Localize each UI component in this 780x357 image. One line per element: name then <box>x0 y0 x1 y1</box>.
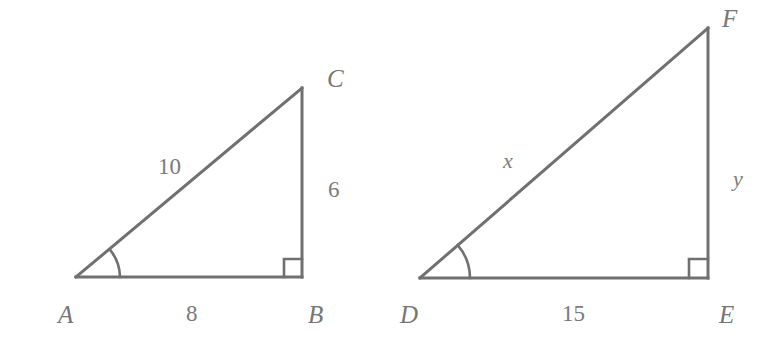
side-label-hypotenuse-abc: 10 <box>158 155 181 178</box>
vertex-label-e: E <box>719 302 734 327</box>
side-label-vertical-def: y <box>733 168 743 190</box>
triangles-canvas <box>0 0 780 357</box>
vertex-label-a: A <box>58 302 73 327</box>
vertex-label-c: C <box>327 66 344 91</box>
side-label-base-abc: 8 <box>186 302 198 325</box>
right-angle-marker-e <box>689 259 708 278</box>
side-label-vertical-abc: 6 <box>328 178 340 201</box>
triangle-abc <box>76 88 302 277</box>
triangle-def <box>420 28 708 278</box>
side-label-hypotenuse-def: x <box>503 150 513 172</box>
geometry-figure: A B C 10 6 8 D E F x y 15 <box>0 0 780 357</box>
angle-arc-d <box>458 245 470 278</box>
vertex-label-f: F <box>722 6 737 31</box>
vertex-label-d: D <box>400 302 418 327</box>
right-angle-marker-b <box>284 259 302 277</box>
angle-arc-a <box>110 250 120 277</box>
vertex-label-b: B <box>308 302 323 327</box>
side-label-base-def: 15 <box>562 302 585 325</box>
segment-df <box>420 28 708 278</box>
